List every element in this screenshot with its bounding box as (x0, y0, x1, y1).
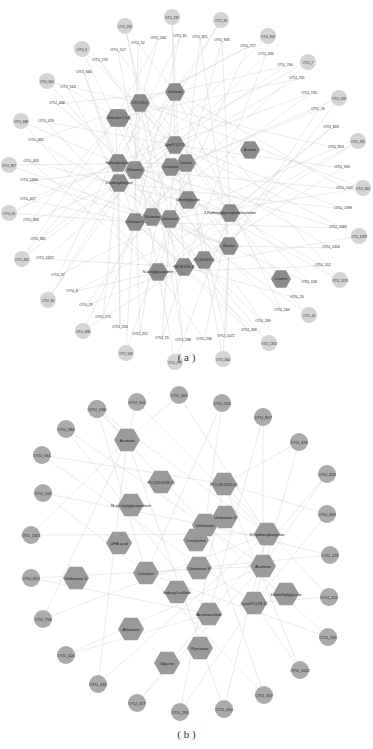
otu-node[interactable]: OTU_434 (318, 505, 336, 523)
otu-node[interactable]: OTU_539 (331, 90, 347, 106)
otu-node[interactable]: OTU_1353 (261, 335, 277, 351)
otu-label[interactable]: OTU_251 (132, 332, 148, 336)
metabolite-node[interactable]: 1-Palmitoylglycerophosphocholine (204, 204, 256, 221)
otu-label[interactable]: OTU_666 (76, 70, 92, 74)
otu-label[interactable]: OTU_264 (274, 308, 290, 312)
otu-label[interactable]: OTU_745 (301, 91, 317, 95)
otu-label[interactable]: OTU_1083 (329, 225, 347, 229)
otu-label[interactable]: OTU_826 (323, 125, 339, 129)
otu-label[interactable]: OTU_513 (60, 85, 76, 89)
otu-label[interactable]: OTU_29 (79, 303, 93, 307)
otu-label[interactable]: OTU_238 (175, 338, 191, 342)
metabolite-node[interactable]: PC(18:0/20:4) (210, 473, 238, 496)
metabolite-node[interactable]: UFA acid (106, 532, 132, 555)
metabolite-node[interactable]: PC(16:0/18:2) (147, 471, 175, 494)
otu-node[interactable]: OTU_337 (255, 686, 273, 704)
otu-label[interactable]: OTU_1321 (36, 256, 54, 260)
otu-label[interactable]: OTU_273 (95, 315, 111, 319)
metabolite-node[interactable]: Isoleucine (160, 210, 180, 227)
otu-label[interactable]: OTU_1072 (217, 334, 235, 338)
otu-label[interactable]: OTU_393 (23, 218, 39, 222)
metabolite-node[interactable]: LysoPC(18:1) (241, 592, 268, 615)
otu-label[interactable]: OTU_453 (23, 159, 39, 163)
metabolite-node[interactable]: PC(16:0/18:2) (193, 251, 214, 268)
otu-node[interactable]: OTU_255 (213, 394, 231, 412)
metabolite-node[interactable]: Acetone (250, 555, 276, 578)
otu-node[interactable]: OTU_432 (89, 675, 107, 693)
otu-label[interactable]: OTU_417 (20, 197, 36, 201)
otu-node[interactable]: OTU_450 (215, 700, 233, 718)
otu-node[interactable]: OTU_903 (260, 28, 276, 44)
otu-label[interactable]: OTU_835 (214, 38, 230, 42)
otu-label[interactable]: OTU_52 (131, 41, 145, 45)
otu-label[interactable]: OTU_700 (277, 63, 293, 67)
otu-label[interactable]: OTU_20 (290, 295, 304, 299)
otu-node[interactable]: OTU_448 (13, 113, 29, 129)
metabolite-node[interactable]: Dimethylglycine (271, 583, 302, 606)
otu-label[interactable]: OTU_963 (334, 165, 350, 169)
otu-node[interactable]: OTU_655 (22, 569, 40, 587)
otu-label[interactable]: OTU_3 (66, 289, 78, 293)
otu-label[interactable]: OTU_209 (241, 328, 257, 332)
otu-node[interactable]: OTU_498 (75, 323, 91, 339)
otu-node[interactable]: OTU_50 (1, 205, 17, 221)
metabolite-node[interactable]: Creatine (133, 562, 159, 585)
otu-label[interactable]: OTU_717 (240, 44, 256, 48)
otu-node[interactable]: OTU_13 (301, 307, 317, 323)
otu-node[interactable]: OTU_361 (170, 386, 188, 404)
otu-label[interactable]: OTU_158 (301, 280, 317, 284)
otu-label[interactable]: OTU_81 (173, 34, 187, 38)
otu-label[interactable]: OTU_152 (315, 263, 331, 267)
otu-node[interactable]: OTU_827 (254, 408, 272, 426)
metabolite-node[interactable]: Indoxyl sulfate (163, 581, 192, 604)
otu-label[interactable]: OTU_381 (30, 237, 46, 241)
otu-node[interactable]: OTU_1373 (332, 272, 348, 288)
otu-node[interactable]: OTU_505 (128, 393, 146, 411)
otu-node[interactable]: OTU_1321 (21, 526, 41, 544)
otu-label[interactable]: OTU_289 (255, 319, 271, 323)
otu-node[interactable]: OTU_1199 (351, 228, 367, 244)
otu-label[interactable]: OTU_741 (289, 76, 305, 80)
otu-node[interactable]: OTU_756 (34, 610, 52, 628)
otu-label[interactable]: OTU_821 (192, 35, 208, 39)
otu-node[interactable]: OTU_477 (128, 694, 146, 712)
otu-node[interactable]: OTU_335 (319, 628, 337, 646)
metabolite-node[interactable]: Allantoin (118, 618, 144, 641)
metabolite-node[interactable]: Acetoacetate (196, 603, 222, 626)
metabolite-node[interactable]: N-acetylglycoprotein (111, 494, 151, 517)
otu-label[interactable]: OTU_1047 (336, 186, 354, 190)
otu-node[interactable]: OTU_476 (290, 433, 308, 451)
otu-node[interactable]: OTU_600 (39, 73, 55, 89)
otu-label[interactable]: OTU_517 (110, 48, 126, 52)
otu-node[interactable]: OTU_367 (1, 157, 17, 173)
metabolite-node[interactable]: Glycine (154, 652, 180, 675)
otu-node[interactable]: OTU_705 (350, 133, 366, 149)
otu-label[interactable]: OTU_176 (92, 58, 108, 62)
otu-label[interactable]: OTU_461 (28, 138, 44, 142)
otu-label[interactable]: OTU_37 (51, 273, 65, 277)
otu-label[interactable]: OTU_476 (38, 119, 54, 123)
otu-label[interactable]: OTU_76 (311, 107, 325, 111)
otu-node[interactable]: OTU_355 (14, 251, 30, 267)
otu-node[interactable]: OTU_225 (321, 546, 339, 564)
metabolite-node[interactable]: Creatine (271, 270, 291, 287)
otu-node[interactable]: OTU_220 (320, 588, 338, 606)
otu-label[interactable]: OTU_534 (150, 36, 166, 40)
otu-label[interactable]: OTU_25 (155, 336, 169, 340)
otu-node[interactable]: OTU_6 (74, 41, 90, 57)
otu-node[interactable]: OTU_233 (117, 18, 133, 34)
otu-node[interactable]: OTU_1022 (290, 661, 310, 679)
otu-node[interactable]: OTU_7 (300, 54, 316, 70)
otu-label[interactable]: OTU_813 (328, 145, 344, 149)
metabolite-node[interactable]: Unknown 3 (186, 557, 212, 580)
otu-node[interactable]: OTU_384 (57, 420, 75, 438)
otu-node[interactable]: OTU_426 (318, 465, 336, 483)
otu-node[interactable]: OTU_559 (34, 484, 52, 502)
otu-label[interactable]: OTU_1398 (334, 206, 352, 210)
otu-label[interactable]: OTU_236 (196, 337, 212, 341)
otu-label[interactable]: OTU_436 (258, 52, 274, 56)
otu-label[interactable]: OTU_1454 (322, 245, 340, 249)
otu-node[interactable]: OTU_360 (355, 180, 371, 196)
otu-label[interactable]: OTU_1364 (20, 178, 38, 182)
otu-node[interactable]: OTU_536 (88, 400, 106, 418)
